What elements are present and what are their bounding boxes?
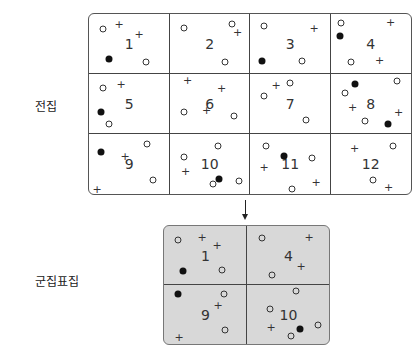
filled-circle-icon — [175, 291, 182, 298]
cluster-number: 8 — [366, 96, 375, 112]
grid-cell-3: 3+ — [250, 14, 331, 74]
grid-cell-6: 6+++ — [170, 74, 251, 134]
cluster-number: 1 — [201, 248, 210, 264]
plus-icon: + — [386, 17, 395, 28]
open-circle-icon — [369, 177, 376, 184]
grid-cell-2: 2+ — [170, 14, 251, 74]
filled-circle-icon — [180, 268, 187, 275]
cluster-sample-label: 군집표집 — [35, 272, 79, 289]
open-circle-icon — [259, 235, 266, 242]
grid-cell-7: 7+ — [250, 74, 331, 134]
open-circle-icon — [389, 143, 396, 150]
open-circle-icon — [221, 291, 228, 298]
open-circle-icon — [293, 288, 300, 295]
filled-circle-icon — [106, 56, 113, 63]
open-circle-icon — [267, 306, 274, 313]
plus-icon: + — [120, 151, 129, 162]
plus-icon: + — [197, 232, 206, 243]
open-circle-icon — [180, 154, 187, 161]
plus-icon: + — [296, 261, 305, 272]
open-circle-icon — [222, 327, 229, 334]
grid-cell-5: 5+ — [89, 74, 170, 134]
filled-circle-icon — [215, 176, 222, 183]
cluster-number: 4 — [366, 36, 375, 52]
cluster-number: 9 — [201, 307, 210, 323]
cluster-number: 2 — [205, 36, 214, 52]
plus-icon: + — [212, 240, 221, 251]
plus-icon: + — [92, 184, 101, 195]
open-circle-icon — [106, 121, 113, 128]
open-circle-icon — [269, 272, 276, 279]
open-circle-icon — [100, 85, 107, 92]
open-circle-icon — [150, 177, 157, 184]
plus-icon: + — [114, 19, 123, 30]
arrow-down-icon — [242, 214, 248, 220]
open-circle-icon — [287, 80, 294, 87]
grid-cell-1: 1++ — [89, 14, 170, 74]
cluster-number: 4 — [284, 248, 293, 264]
grid-cell-12: 12++ — [331, 134, 412, 194]
cluster-number: 10 — [280, 307, 298, 323]
filled-circle-icon — [98, 149, 105, 156]
filled-circle-icon — [384, 121, 391, 128]
grid-cell-11: 11++ — [250, 134, 331, 194]
cluster-number: 3 — [286, 36, 295, 52]
open-circle-icon — [361, 118, 368, 125]
population-grid: 1++2+3+4++5+6+++7+8++9++10+11++12++ — [88, 13, 412, 195]
plus-icon: + — [394, 107, 403, 118]
open-circle-icon — [261, 23, 268, 30]
plus-icon: + — [311, 177, 320, 188]
open-circle-icon — [180, 109, 187, 116]
cluster-cell-10: 10+ — [247, 285, 330, 344]
cluster-sample-box: 1++4++9++10+ — [163, 225, 330, 345]
grid-cell-4: 4++ — [331, 14, 412, 74]
cluster-number: 5 — [125, 96, 134, 112]
plus-icon: + — [348, 102, 357, 113]
open-circle-icon — [309, 155, 316, 162]
grid-cell-8: 8++ — [331, 74, 412, 134]
open-circle-icon — [337, 20, 344, 27]
cluster-cell-4: 4++ — [247, 226, 330, 285]
grid-cell-10: 10+ — [170, 134, 251, 194]
open-circle-icon — [315, 322, 322, 329]
cluster-cell-1: 1++ — [164, 226, 247, 285]
plus-icon: + — [213, 300, 222, 311]
plus-icon: + — [384, 182, 393, 193]
open-circle-icon — [219, 267, 226, 274]
plus-icon: + — [174, 332, 183, 343]
filled-circle-icon — [297, 326, 304, 333]
open-circle-icon — [144, 141, 151, 148]
plus-icon: + — [181, 166, 190, 177]
open-circle-icon — [263, 143, 270, 150]
open-circle-icon — [347, 59, 354, 66]
open-circle-icon — [341, 90, 348, 97]
open-circle-icon — [143, 59, 150, 66]
grid-cell-9: 9++ — [89, 134, 170, 194]
plus-icon: + — [217, 83, 226, 94]
filled-circle-icon — [281, 153, 288, 160]
plus-icon: + — [309, 23, 318, 34]
cluster-cell-9: 9++ — [164, 285, 247, 344]
open-circle-icon — [209, 181, 216, 188]
open-circle-icon — [214, 143, 221, 150]
open-circle-icon — [261, 93, 268, 100]
open-circle-icon — [393, 78, 400, 85]
plus-icon: + — [202, 105, 211, 116]
open-circle-icon — [180, 25, 187, 32]
plus-icon: + — [271, 80, 280, 91]
plus-icon: + — [134, 29, 143, 40]
plus-icon: + — [233, 27, 242, 38]
open-circle-icon — [289, 186, 296, 193]
population-label: 전집 — [35, 97, 57, 114]
filled-circle-icon — [259, 58, 266, 65]
cluster-number: 7 — [286, 96, 295, 112]
cluster-number: 10 — [201, 156, 219, 172]
plus-icon: + — [266, 322, 275, 333]
filled-circle-icon — [351, 81, 358, 88]
open-circle-icon — [100, 26, 107, 33]
filled-circle-icon — [336, 33, 343, 40]
filled-circle-icon — [98, 109, 105, 116]
cluster-number: 1 — [125, 36, 134, 52]
open-circle-icon — [235, 178, 242, 185]
open-circle-icon — [230, 113, 237, 120]
